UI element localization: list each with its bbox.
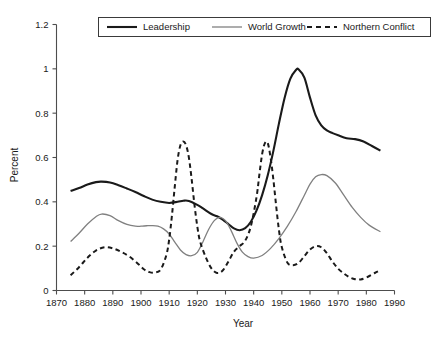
x-tick-label: 1890 xyxy=(102,297,123,308)
x-tick-label: 1990 xyxy=(384,297,405,308)
axes-group: 00.20.40.60.811.2 1870188018901900191019… xyxy=(35,19,405,308)
y-tick-label: 1.2 xyxy=(35,19,48,30)
x-tick-label: 1970 xyxy=(328,297,349,308)
y-tick-label: 0.4 xyxy=(35,196,48,207)
x-tick-label: 1920 xyxy=(187,297,208,308)
line-chart: 00.20.40.60.811.2 1870188018901900191019… xyxy=(0,0,439,337)
legend-label-world-growth: World Growth xyxy=(248,21,306,32)
x-tick-label: 1910 xyxy=(159,297,180,308)
y-tick-label: 0.6 xyxy=(35,152,48,163)
x-tick-label: 1980 xyxy=(356,297,377,308)
x-tick-label: 1950 xyxy=(271,297,292,308)
x-tick-label: 1960 xyxy=(299,297,320,308)
y-tick-label: 0.8 xyxy=(35,108,48,119)
series-line-world-growth xyxy=(71,174,381,258)
chart-legend: LeadershipWorld GrowthNorthern Conflict xyxy=(99,18,431,37)
data-series-group xyxy=(71,69,381,280)
y-axis-title: Percent xyxy=(9,148,20,183)
x-tick-label: 1930 xyxy=(215,297,236,308)
series-line-leadership xyxy=(71,69,381,231)
series-line-northern-conflict xyxy=(71,141,381,279)
legend-label-northern-conflict: Northern Conflict xyxy=(343,21,415,32)
y-axis-ticks: 00.20.40.60.811.2 xyxy=(35,19,56,296)
y-tick-label: 0 xyxy=(43,285,48,296)
x-tick-label: 1880 xyxy=(74,297,95,308)
x-tick-label: 1940 xyxy=(243,297,264,308)
y-tick-label: 1 xyxy=(43,63,48,74)
x-axis-title: Year xyxy=(233,318,254,329)
chart-container: 00.20.40.60.811.2 1870188018901900191019… xyxy=(0,0,439,337)
x-tick-label: 1870 xyxy=(46,297,67,308)
y-tick-label: 0.2 xyxy=(35,241,48,252)
x-tick-label: 1900 xyxy=(130,297,151,308)
x-axis-ticks: 1870188018901900191019201930194019501960… xyxy=(46,291,405,309)
legend-label-leadership: Leadership xyxy=(143,21,190,32)
